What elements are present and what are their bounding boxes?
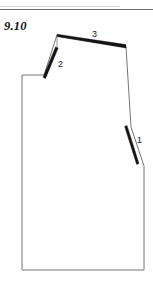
dart-label-3: 3: [92, 30, 97, 39]
pattern-block-drawing: [0, 0, 153, 294]
dart-label-2: 2: [58, 60, 63, 69]
dart-label-1: 1: [137, 136, 142, 145]
pattern-outline-shape: [22, 35, 144, 270]
figure-page: 9.10 1 2 3: [0, 0, 153, 294]
